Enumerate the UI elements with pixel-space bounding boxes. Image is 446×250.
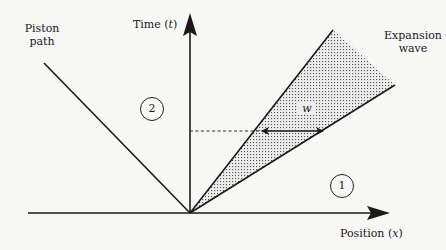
time-axis-label: Time (t)	[133, 18, 177, 31]
piston-label-line2: path	[14, 35, 70, 48]
piston-path-line	[44, 63, 190, 213]
wave-label-line2: wave	[380, 42, 446, 55]
expansion-wave-region	[190, 30, 395, 213]
time-axis-label-text: Time	[133, 18, 161, 31]
position-axis-label-text: Position	[340, 227, 384, 240]
position-axis-label: Position (x)	[340, 227, 403, 240]
expansion-wave-diagram: Piston path Time (t) Expansion wave w 2 …	[0, 0, 446, 250]
wave-width-symbol: w	[302, 102, 311, 115]
region-2-label: 2	[149, 102, 156, 115]
region-1-marker: 1	[330, 174, 354, 198]
piston-path-label: Piston path	[14, 22, 70, 48]
wave-width-label: w	[298, 102, 316, 115]
expansion-wave-label: Expansion wave	[380, 29, 446, 55]
position-axis-variable: x	[392, 227, 398, 240]
region-1-label: 1	[339, 179, 346, 192]
piston-label-line1: Piston	[14, 22, 70, 35]
region-2-marker: 2	[140, 97, 164, 121]
time-axis-variable: t	[169, 18, 173, 31]
wave-label-line1: Expansion	[380, 29, 446, 42]
